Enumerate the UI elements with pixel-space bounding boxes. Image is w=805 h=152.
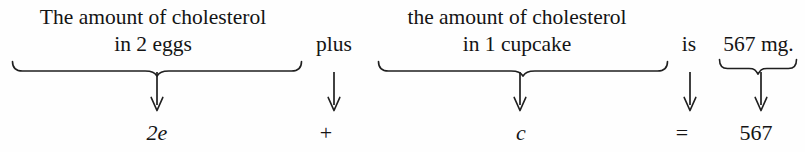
phrase-block-mg: 567 mg. <box>712 31 805 58</box>
phrase-cupcake-line2: in 1 cupcake <box>364 31 670 58</box>
phrase-eggs-line1: The amount of cholesterol <box>0 4 306 31</box>
phrase-cupcake-line1: the amount of cholesterol <box>364 4 670 31</box>
connector-word-is: is <box>666 31 712 58</box>
phrase-block-eggs: The amount of cholesterol in 2 eggs <box>0 4 306 58</box>
down-arrow-icon-is <box>681 72 699 112</box>
down-arrow-icon-plus <box>325 72 343 112</box>
down-arrow-icon-eggs <box>148 72 166 112</box>
operator-equals: = <box>653 120 711 146</box>
phrase-mg-value: 567 mg. <box>712 31 805 58</box>
phrase-block-cupcake: the amount of cholesterol in 1 cupcake <box>364 4 670 58</box>
connector-word-plus: plus <box>303 31 365 58</box>
algebraic-term-total: 567 <box>722 120 790 146</box>
equation-translation-figure: The amount of cholesterol in 2 eggs plus… <box>0 0 805 152</box>
down-arrow-icon-cupcake <box>511 72 529 112</box>
down-arrow-icon-mg <box>752 72 770 112</box>
algebraic-term-cupcake: c <box>482 120 560 146</box>
phrase-eggs-line2: in 2 eggs <box>0 31 306 58</box>
algebraic-term-eggs: 2e <box>117 120 197 146</box>
operator-plus: + <box>296 120 356 146</box>
